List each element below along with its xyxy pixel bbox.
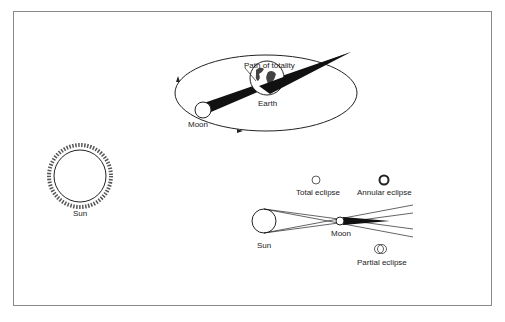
total-eclipse-label: Total eclipse <box>296 188 341 197</box>
sun-large-group: Sun <box>49 145 111 218</box>
eclipse-geometry-group: Sun Moon Total eclipse Annular eclipse P… <box>252 176 413 268</box>
total-eclipse-icon <box>312 176 320 184</box>
geometry-moon-label: Moon <box>331 229 351 238</box>
moon-circle <box>195 102 211 118</box>
sun-large-label: Sun <box>73 209 87 218</box>
eclipse-diagram: Path of totality Earth Moon Sun Sun Moon… <box>0 0 505 322</box>
orbit-group: Path of totality Earth Moon <box>175 52 357 133</box>
annular-eclipse-label: Annular eclipse <box>357 188 412 197</box>
umbra-cone <box>343 217 390 225</box>
earth-label: Earth <box>258 99 277 108</box>
annular-eclipse-icon <box>380 176 389 185</box>
sun-large-circle <box>54 150 106 202</box>
partial-eclipse-label: Partial eclipse <box>357 258 407 267</box>
orbit-arrow-left-icon <box>176 76 180 82</box>
path-of-totality-label: Path of totality <box>244 61 295 70</box>
geometry-sun-circle <box>252 209 276 233</box>
orbit-moon-label: Moon <box>188 120 208 129</box>
geometry-sun-label: Sun <box>257 241 271 250</box>
geometry-moon-circle <box>336 217 344 225</box>
